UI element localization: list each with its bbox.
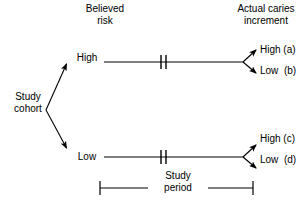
node-outcome-high-c: High (c) — [260, 133, 306, 145]
edge-low-to-outcome-c — [243, 145, 256, 157]
label-study-period: Study period — [150, 170, 206, 193]
node-believed-risk-low: Low — [72, 151, 102, 163]
edge-high-to-outcome-a — [243, 50, 256, 62]
node-study-cohort: Study cohort — [2, 91, 54, 114]
node-believed-risk-high: High — [72, 52, 102, 64]
node-outcome-low-d: Low (d) — [260, 154, 306, 166]
edge-low-to-outcome-d — [243, 157, 256, 168]
edge-cohort-to-low — [46, 110, 67, 148]
node-outcome-high-a: High (a) — [260, 44, 306, 56]
header-believed-risk: Believed risk — [66, 3, 144, 26]
header-actual-caries-increment: Actual caries increment — [226, 3, 306, 26]
edge-high-to-outcome-b — [243, 62, 256, 73]
node-outcome-low-b: Low (b) — [260, 65, 306, 77]
diagram-canvas: Believed risk Actual caries increment St… — [0, 0, 306, 207]
